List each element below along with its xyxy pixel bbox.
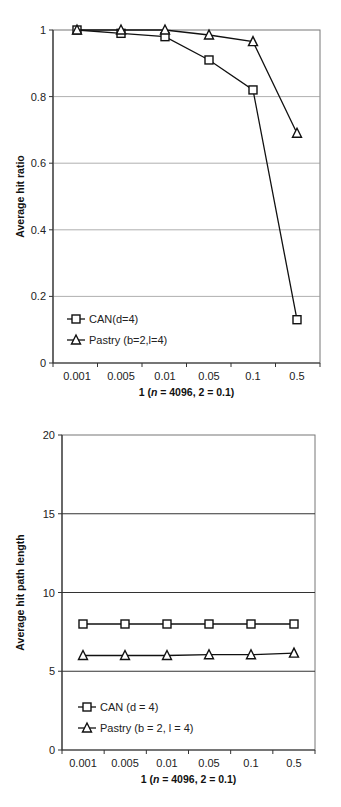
- y-axis-label: Average hit path length: [14, 534, 26, 650]
- square-marker-icon: [290, 620, 298, 628]
- y-tick-label: 15: [43, 508, 55, 520]
- y-tick-label: 20: [43, 429, 55, 441]
- square-marker-icon: [205, 620, 213, 628]
- hit-path-length-chart: 051015200.0010.0050.010.050.10.51 (n = 4…: [0, 0, 341, 807]
- x-tick-label: 0.05: [198, 757, 219, 769]
- x-tick-label: 0.1: [243, 757, 258, 769]
- square-marker-icon: [121, 620, 129, 628]
- y-tick-label: 5: [49, 665, 55, 677]
- x-tick-label: 0.01: [156, 757, 177, 769]
- x-tick-label: 0.001: [69, 757, 97, 769]
- legend-square-icon: [83, 703, 91, 711]
- square-marker-icon: [79, 620, 87, 628]
- series-can: [79, 620, 298, 628]
- y-tick-label: 0: [49, 744, 55, 756]
- x-axis-label: 1 (n = 4096, 2 = 0.1): [141, 773, 237, 785]
- legend-label: Pastry (b = 2, l = 4): [100, 722, 194, 734]
- legend: CAN (d = 4)Pastry (b = 2, l = 4): [78, 701, 194, 734]
- series-pastry: [79, 648, 299, 659]
- square-marker-icon: [247, 620, 255, 628]
- y-tick-label: 10: [43, 587, 55, 599]
- x-tick-label: 0.5: [286, 757, 301, 769]
- legend-label: CAN (d = 4): [100, 701, 158, 713]
- square-marker-icon: [163, 620, 171, 628]
- x-tick-label: 0.005: [111, 757, 139, 769]
